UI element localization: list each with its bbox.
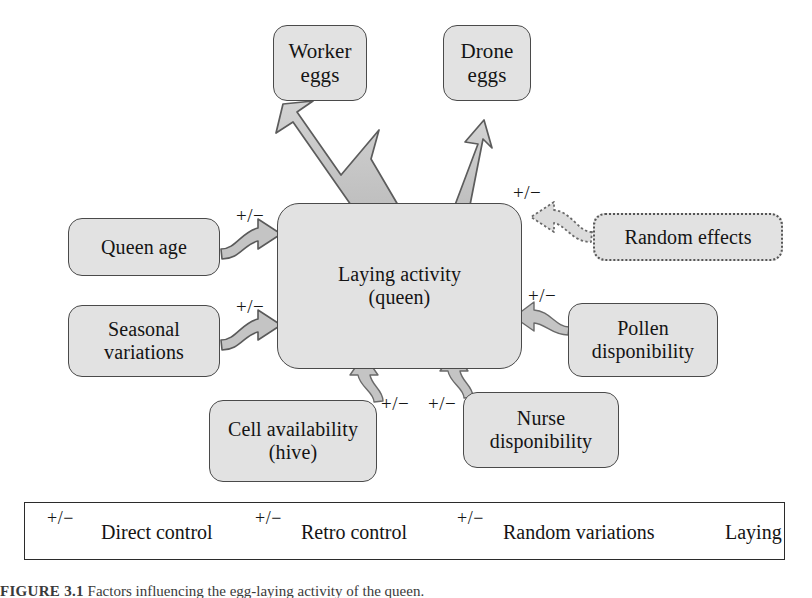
arrow-laying-worker-eggs: [276, 101, 398, 205]
node-cell-availability[interactable]: Cell availability (hive): [209, 400, 377, 482]
legend-retro-control-glyph-slot: +/−: [243, 509, 297, 555]
node-nurse-disponibility-label: Nurse disponibility: [490, 407, 592, 453]
legend-sign-random-variations: +/−: [457, 508, 484, 529]
node-drone-eggs[interactable]: Drone eggs: [443, 25, 531, 101]
legend-label-retro-control: Retro control: [301, 521, 407, 544]
node-seasonal-variations-label: Seasonal variations: [104, 318, 184, 364]
legend-label-direct-control: Direct control: [101, 521, 213, 544]
node-nurse-disponibility[interactable]: Nurse disponibility: [463, 392, 619, 468]
figure-influence-diagram: Worker eggs Drone eggs Queen age Seasona…: [0, 0, 812, 598]
edge-sign-nurse-disponibility: +/−: [428, 393, 456, 415]
legend-item-random-variations: +/− Random variations: [445, 503, 655, 561]
node-worker-eggs-label: Worker eggs: [288, 39, 351, 87]
node-laying-activity[interactable]: Laying activity (queen): [277, 203, 522, 369]
node-random-effects-label: Random effects: [624, 226, 751, 249]
node-worker-eggs[interactable]: Worker eggs: [273, 25, 367, 101]
node-queen-age[interactable]: Queen age: [68, 218, 220, 276]
edge-sign-cell-availability: +/−: [381, 393, 409, 415]
arrow-random-variations-random-effects: [531, 202, 592, 242]
node-cell-availability-label: Cell availability (hive): [228, 418, 358, 464]
node-drone-eggs-label: Drone eggs: [461, 39, 514, 87]
legend-sign-direct-control: +/−: [47, 508, 74, 529]
edge-sign-seasonal-variations: +/−: [236, 296, 264, 318]
node-seasonal-variations[interactable]: Seasonal variations: [68, 305, 220, 377]
edge-sign-queen-age: +/−: [236, 205, 264, 227]
node-pollen-disponibility[interactable]: Pollen disponibility: [568, 303, 718, 377]
arrow-laying-drone-eggs: [455, 120, 492, 205]
legend-item-retro-control: +/− Retro control: [243, 503, 407, 561]
legend-direct-control-glyph-slot: +/−: [35, 509, 97, 555]
figure-caption-label: FIGURE 3.1: [0, 583, 84, 598]
legend-sign-retro-control: +/−: [255, 508, 282, 529]
legend-item-laying: Laying: [675, 503, 782, 561]
node-pollen-disponibility-label: Pollen disponibility: [592, 317, 694, 363]
legend-item-direct-control: +/− Direct control: [35, 503, 213, 561]
node-random-effects[interactable]: Random effects: [593, 213, 783, 261]
legend: +/− Direct control +/− Retro control +/−…: [24, 502, 785, 560]
edge-sign-random-effects: +/−: [513, 182, 541, 204]
node-queen-age-label: Queen age: [101, 236, 187, 259]
node-laying-activity-label: Laying activity (queen): [338, 263, 461, 309]
legend-laying-glyph-slot: [675, 509, 721, 555]
figure-caption-text: Factors influencing the egg-laying activ…: [88, 583, 425, 598]
figure-caption: FIGURE 3.1 Factors influencing the egg-l…: [0, 583, 812, 598]
legend-label-random-variations: Random variations: [503, 521, 655, 544]
legend-label-laying: Laying: [725, 521, 782, 544]
legend-random-variations-glyph-slot: +/−: [445, 509, 499, 555]
edge-sign-pollen-disponibility: +/−: [528, 285, 556, 307]
